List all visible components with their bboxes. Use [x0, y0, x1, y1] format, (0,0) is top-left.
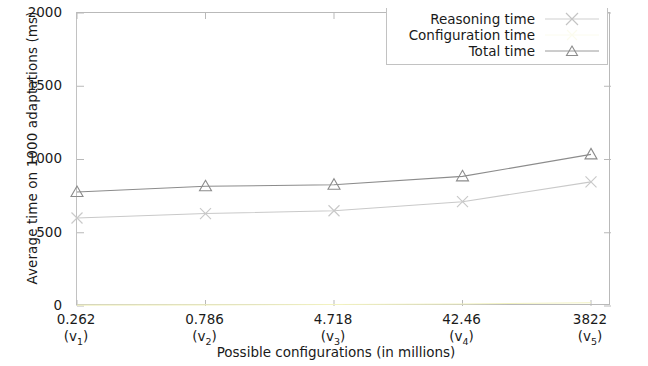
legend-marker-x-icon — [543, 11, 601, 27]
chart-figure: Average time on 1000 adaptations (ms) 20… — [0, 0, 648, 366]
x-tick-label: 4.718(v3) — [278, 311, 388, 347]
y-tick-label: 500 — [6, 224, 62, 240]
x-tick-value: 3822 — [573, 311, 607, 327]
legend-marker-triangle-icon — [543, 43, 601, 59]
legend-item-total-time: Total time — [393, 43, 601, 59]
x-tick-value: 42.46 — [442, 311, 481, 327]
x-tick-label: 0.262(v1) — [21, 311, 131, 347]
x-tick-label: 0.786(v2) — [150, 311, 260, 347]
legend-label: Configuration time — [409, 27, 535, 43]
series-total-time — [71, 148, 597, 196]
x-tick-value: 0.786 — [185, 311, 224, 327]
legend-item-configuration-time: Configuration time — [393, 27, 601, 43]
legend-label: Total time — [469, 43, 535, 59]
x-tick-value: 0.262 — [57, 311, 96, 327]
x-tick-value: 4.718 — [314, 311, 353, 327]
x-tick-label: 42.46(v4) — [407, 311, 517, 347]
legend-label: Reasoning time — [430, 11, 535, 27]
x-tick-label: 3822(v5) — [535, 311, 645, 347]
series-reasoning-time — [72, 176, 597, 223]
y-tick-label: 1500 — [6, 77, 62, 93]
x-axis-title: Possible configurations (in millions) — [60, 344, 612, 360]
y-tick-label: 1000 — [6, 150, 62, 166]
y-tick-label: 2000 — [6, 4, 62, 20]
legend-marker-none-icon — [543, 27, 601, 43]
chart-legend: Reasoning time Configuration time Total … — [386, 8, 608, 65]
legend-item-reasoning-time: Reasoning time — [393, 11, 601, 27]
